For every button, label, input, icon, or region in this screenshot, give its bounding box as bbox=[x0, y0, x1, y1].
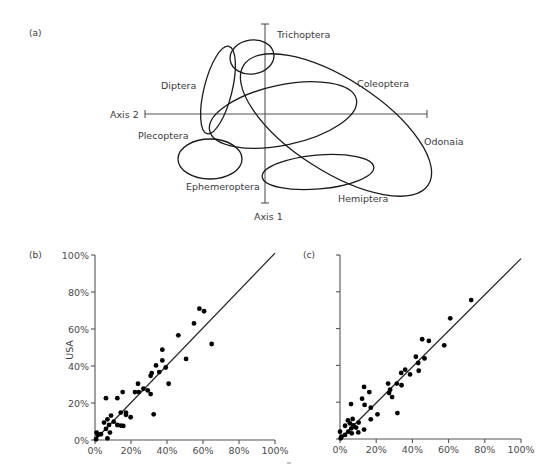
data-point bbox=[420, 337, 425, 342]
x-tick-label: 80% bbox=[474, 444, 495, 455]
envelope-coleoptera-odonaia bbox=[219, 27, 454, 224]
data-point bbox=[338, 436, 343, 441]
x-tick-label: 80% bbox=[228, 445, 249, 456]
y-tick-label: 40% bbox=[68, 361, 89, 372]
data-point bbox=[121, 424, 126, 429]
envelope-ephemeroptera bbox=[178, 139, 242, 179]
x-tick-label: 20% bbox=[366, 444, 387, 455]
y-tick-label: 0% bbox=[74, 435, 89, 446]
data-point bbox=[416, 361, 421, 366]
scatter-plot-b: (b) USA 0%0%20%20%40%40%60%60%80%80%100%… bbox=[29, 250, 289, 457]
data-point bbox=[362, 427, 367, 432]
data-point bbox=[124, 412, 129, 417]
y-axis-label-usa: USA bbox=[64, 340, 75, 360]
data-point bbox=[197, 306, 202, 311]
data-point bbox=[367, 390, 372, 395]
data-point bbox=[163, 365, 168, 370]
data-point bbox=[360, 396, 365, 401]
group-label-diptera: Diptera bbox=[161, 80, 196, 91]
data-point bbox=[109, 413, 114, 418]
envelope-diptera bbox=[194, 43, 243, 137]
data-point bbox=[375, 412, 380, 417]
data-point bbox=[399, 371, 404, 376]
x-tick-label: 40% bbox=[156, 445, 177, 456]
data-point bbox=[394, 381, 399, 386]
data-point bbox=[148, 373, 153, 378]
data-point bbox=[448, 316, 453, 321]
data-point bbox=[362, 403, 367, 408]
data-point bbox=[184, 357, 189, 362]
group-label-hemiptera: Hemiptera bbox=[338, 193, 388, 204]
data-point bbox=[157, 370, 162, 375]
data-point bbox=[368, 417, 373, 422]
data-point bbox=[105, 417, 110, 422]
data-point bbox=[192, 321, 197, 326]
panel-label-c: (c) bbox=[303, 250, 315, 260]
data-point bbox=[151, 412, 156, 417]
y-tick-label: 100% bbox=[62, 250, 89, 261]
data-point bbox=[176, 333, 181, 338]
x-tick-label: 100% bbox=[261, 445, 288, 456]
data-point bbox=[386, 381, 391, 386]
envelope-plecoptera bbox=[203, 70, 362, 160]
data-point bbox=[136, 381, 141, 386]
data-point bbox=[408, 372, 413, 377]
data-point bbox=[343, 423, 348, 428]
data-point bbox=[349, 402, 354, 407]
x-tick-label: 100% bbox=[507, 444, 534, 455]
data-point bbox=[160, 358, 165, 363]
data-point bbox=[338, 429, 343, 434]
data-point bbox=[128, 415, 133, 420]
figure: (a) Axis 2 Axis 1 Trichoptera Diptera Co… bbox=[0, 0, 558, 465]
data-point bbox=[390, 395, 395, 400]
group-label-trichoptera: Trichoptera bbox=[276, 29, 330, 40]
data-point bbox=[399, 383, 404, 388]
data-point bbox=[154, 363, 159, 368]
data-point bbox=[104, 396, 109, 401]
x-tick-label: 60% bbox=[438, 444, 459, 455]
x-tick-label: 40% bbox=[402, 444, 423, 455]
data-point bbox=[94, 437, 99, 442]
group-label-coleoptera: Coleoptera bbox=[357, 78, 409, 89]
x-tick-label: 60% bbox=[192, 445, 213, 456]
data-point bbox=[422, 356, 427, 361]
group-label-odonaia: Odonaia bbox=[424, 136, 464, 147]
x-tick-label: 0% bbox=[87, 445, 102, 456]
fit-line-c bbox=[340, 259, 521, 439]
data-point bbox=[108, 430, 113, 435]
y-tick-label: 60% bbox=[68, 324, 89, 335]
group-label-plecoptera: Plecoptera bbox=[138, 130, 189, 141]
data-point bbox=[356, 430, 361, 435]
data-point bbox=[120, 390, 125, 395]
group-label-ephemeroptera: Ephemeroptera bbox=[186, 181, 260, 192]
data-point bbox=[107, 423, 112, 428]
data-point bbox=[166, 381, 171, 386]
y-tick-label: 20% bbox=[68, 398, 89, 409]
data-point bbox=[202, 309, 207, 314]
data-point bbox=[111, 419, 116, 424]
data-point bbox=[356, 420, 361, 425]
x-tick-label: 20% bbox=[120, 445, 141, 456]
data-point bbox=[160, 347, 165, 352]
data-point bbox=[403, 367, 408, 372]
scatter-plot-c: (c) 0%20%40%60%80%100% bbox=[303, 250, 535, 455]
data-point bbox=[104, 427, 109, 432]
data-point bbox=[118, 410, 123, 415]
data-point bbox=[350, 417, 355, 422]
panel-label-b: (b) bbox=[29, 250, 42, 260]
data-point bbox=[148, 392, 153, 397]
data-point bbox=[141, 386, 146, 391]
data-point bbox=[115, 396, 120, 401]
data-point bbox=[442, 343, 447, 348]
data-point bbox=[413, 354, 418, 359]
data-point bbox=[416, 368, 421, 373]
ordination-diagram: (a) Axis 2 Axis 1 Trichoptera Diptera Co… bbox=[29, 24, 464, 223]
data-point bbox=[387, 391, 392, 396]
data-point bbox=[95, 433, 100, 438]
data-point bbox=[209, 342, 214, 347]
data-point bbox=[362, 385, 367, 390]
data-point bbox=[354, 425, 359, 430]
panel-label-a: (a) bbox=[29, 28, 42, 38]
axis-2-label: Axis 2 bbox=[110, 109, 139, 120]
data-point bbox=[469, 298, 474, 303]
